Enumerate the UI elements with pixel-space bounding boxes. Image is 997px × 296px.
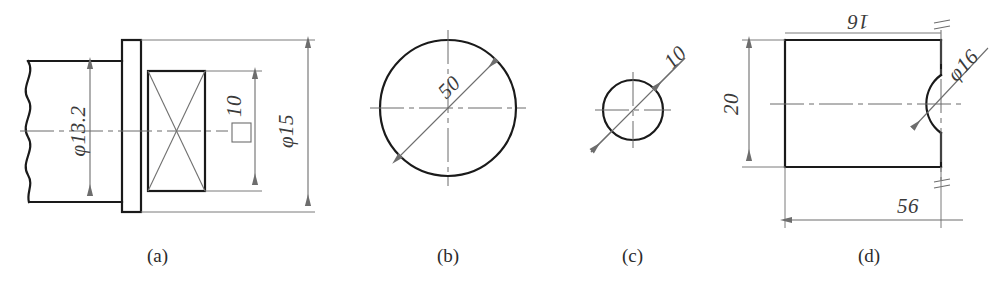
figure-c: 10 (591, 41, 691, 152)
symmetry-mark-bottom (934, 179, 950, 188)
flange-rect (122, 40, 141, 212)
dim-text-d-hole: φ16 (942, 45, 983, 86)
symmetry-mark-top (934, 20, 950, 29)
dim-text-square10: 10 (222, 95, 246, 117)
dim-text-phi13-2: φ13.2 (66, 106, 90, 157)
caption-figure-a: (a) (147, 245, 168, 267)
dim-arrow-c-lower (591, 131, 612, 152)
figure-b: 50 (370, 30, 526, 186)
dim-text-d-length: 56 (897, 194, 919, 218)
dim-text-c-diameter: 10 (659, 41, 692, 74)
dim-text-b-diameter: 50 (433, 71, 466, 104)
dim-text-phi15: φ15 (274, 114, 298, 148)
dim-text-d-top: 16 (847, 10, 869, 34)
figure-d: φ16 16 20 56 (719, 10, 988, 228)
caption-figure-b: (b) (437, 245, 459, 267)
drawing-sheet: φ13.2 10 φ15 50 10 (0, 0, 997, 296)
square-symbol-icon (232, 123, 251, 142)
caption-figure-c: (c) (622, 245, 643, 267)
dim-text-d-height: 20 (719, 93, 743, 115)
caption-figure-d: (d) (858, 245, 880, 267)
figure-a: φ13.2 10 φ15 (20, 40, 315, 212)
